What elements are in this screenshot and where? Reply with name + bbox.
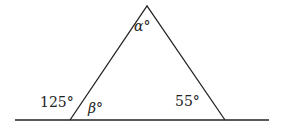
angle-label-interior-right: 55° (175, 93, 200, 109)
angle-label-beta: β° (87, 100, 103, 116)
angle-label-exterior-left: 125° (40, 94, 74, 110)
angle-label-alpha: α° (134, 18, 150, 34)
triangle-diagram: α° β° 125° 55° (0, 0, 281, 130)
